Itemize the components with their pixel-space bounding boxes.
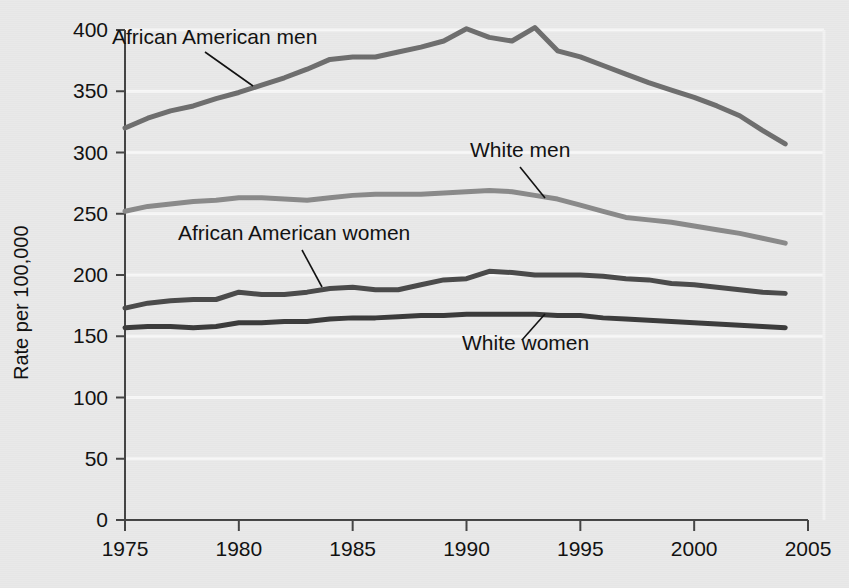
y-tick-label: 400	[73, 18, 108, 41]
y-tick-label: 50	[85, 447, 108, 470]
y-tick-label: 0	[96, 508, 108, 531]
series-label-3: White women	[462, 331, 589, 354]
x-tick-label: 1980	[215, 537, 262, 560]
x-tick-label: 2000	[671, 537, 718, 560]
y-tick-label: 100	[73, 386, 108, 409]
x-tick-label: 1990	[443, 537, 490, 560]
y-tick-label: 350	[73, 79, 108, 102]
series-label-1: White men	[470, 138, 570, 161]
line-chart: 050100150200250300350400 197519801985199…	[0, 0, 849, 588]
y-tick-label: 250	[73, 202, 108, 225]
chart-background	[0, 0, 849, 588]
x-tick-label: 1995	[557, 537, 604, 560]
y-tick-label: 150	[73, 324, 108, 347]
x-tick-label: 1975	[102, 537, 149, 560]
x-tick-label: 1985	[329, 537, 376, 560]
series-label-2: African American women	[178, 221, 410, 244]
y-axis-title: Rate per 100,000	[10, 225, 32, 380]
x-tick-label: 2005	[785, 537, 832, 560]
series-label-0: African American men	[112, 25, 317, 48]
y-tick-label: 300	[73, 141, 108, 164]
y-tick-label: 200	[73, 263, 108, 286]
chart-container: 050100150200250300350400 197519801985199…	[0, 0, 849, 588]
